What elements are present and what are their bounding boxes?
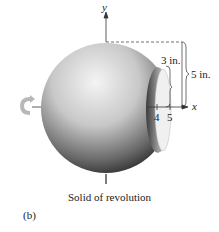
rotation-arrow-icon [22, 95, 35, 113]
outer-radius-label: 5 in. [191, 69, 211, 80]
figure-caption: Solid of revolution [68, 192, 151, 203]
panel-label: (b) [23, 210, 36, 221]
tick-label-4: 4 [154, 112, 160, 123]
tick-label-5: 5 [167, 112, 173, 123]
hollow-opening [146, 67, 175, 153]
inner-radius-label: 3 in. [161, 55, 181, 66]
x-axis-label: x [192, 101, 197, 112]
y-axis-label: y [102, 2, 107, 13]
